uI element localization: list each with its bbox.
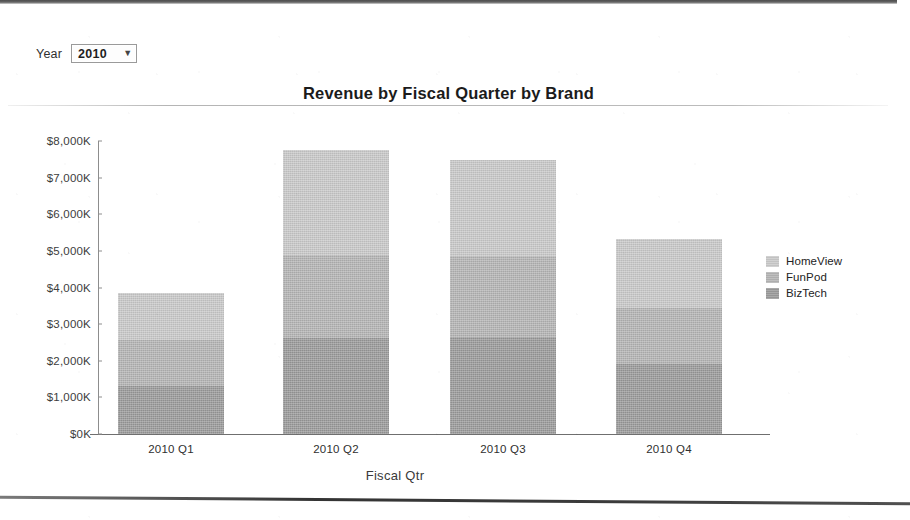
bar-segment-biztech[interactable] [616,364,722,434]
legend-item[interactable]: HomeView [766,254,842,268]
year-select-value: 2010 [78,47,107,61]
y-axis-tick-label: $1,000K [47,391,98,403]
y-axis-tick-mark [98,287,102,288]
x-axis-category-label: 2010 Q2 [271,443,401,455]
y-axis-tick-mark [98,324,102,325]
legend-item-label: BizTech [786,287,827,299]
title-divider [8,105,888,106]
chart-legend: HomeViewFunPodBizTech [766,254,842,300]
y-axis-tick-mark [98,250,102,251]
bar-segment-homeview[interactable] [118,293,224,340]
y-axis-tick-label: $0K [70,428,98,440]
x-axis-category-label: 2010 Q3 [438,443,568,455]
bar-segment-funpod[interactable] [616,308,722,364]
x-axis-title: Fiscal Qtr [0,468,790,483]
bar-segment-biztech[interactable] [450,337,556,434]
bar-segment-homeview[interactable] [616,239,722,308]
bar-segment-biztech[interactable] [118,386,224,434]
bar-segment-homeview[interactable] [283,150,389,255]
legend-item[interactable]: BizTech [766,286,842,300]
scan-bottom-edge-artifact [0,496,910,506]
y-axis-tick-mark [98,360,102,361]
x-axis-category-label: 2010 Q4 [604,443,734,455]
bar-segment-biztech[interactable] [283,338,389,434]
stacked-bar[interactable] [118,293,224,434]
y-axis-tick-mark [98,177,102,178]
bar-segment-funpod[interactable] [450,256,556,337]
y-axis-tick-mark [98,397,102,398]
y-axis-tick-mark [98,214,102,215]
bar-segment-homeview[interactable] [450,160,556,256]
y-axis-tick-mark [98,141,102,142]
y-axis-tick-label: $2,000K [47,355,98,367]
legend-item[interactable]: FunPod [766,270,842,284]
y-axis-tick-label: $6,000K [47,208,98,220]
chevron-down-icon: ▼ [123,49,132,58]
bar-segment-funpod[interactable] [118,340,224,386]
x-axis-line [90,434,770,435]
year-select[interactable]: 2010 ▼ [71,44,137,63]
y-axis-tick-label: $8,000K [47,135,98,147]
legend-item-label: FunPod [786,271,827,283]
bar-segment-funpod[interactable] [283,255,389,338]
y-axis-tick-label: $5,000K [47,245,98,257]
plot-area: $0K$1,000K$2,000K$3,000K$4,000K$5,000K$6… [98,141,746,434]
legend-color-swatch [766,288,779,299]
x-axis-category-label: 2010 Q1 [106,443,236,455]
y-axis-tick-label: $3,000K [47,318,98,330]
chart-title: Revenue by Fiscal Quarter by Brand [0,84,897,103]
stacked-bar[interactable] [283,150,389,434]
y-axis-tick-mark [98,434,102,435]
y-axis-tick-label: $7,000K [47,172,98,184]
stacked-bar[interactable] [616,239,722,434]
legend-color-swatch [766,256,779,267]
legend-color-swatch [766,272,779,283]
y-axis-tick-label: $4,000K [47,282,98,294]
legend-item-label: HomeView [786,255,842,267]
stacked-bar[interactable] [450,160,556,434]
year-filter: Year 2010 ▼ [36,44,137,63]
scan-top-edge-artifact [0,0,897,4]
year-filter-label: Year [36,47,62,61]
